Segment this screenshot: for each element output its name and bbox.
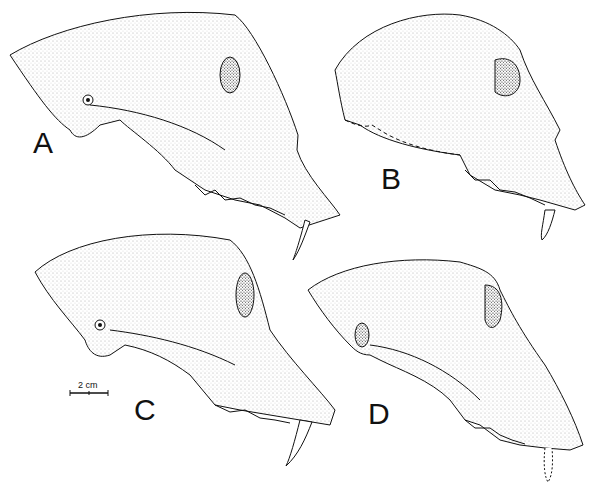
skull-b	[335, 14, 585, 240]
skull-figure: A B C D 2 cm	[0, 0, 596, 499]
panel-label-a: A	[33, 128, 53, 158]
panel-label-b: B	[381, 164, 401, 194]
panel-label-d: D	[368, 399, 390, 429]
skull-drawings	[0, 0, 596, 499]
skull-c	[35, 234, 335, 466]
skull-d	[308, 260, 583, 482]
scale-bar	[70, 390, 108, 396]
skull-a	[10, 12, 340, 260]
panel-label-c: C	[134, 395, 156, 425]
scale-bar-label: 2 cm	[78, 380, 98, 390]
